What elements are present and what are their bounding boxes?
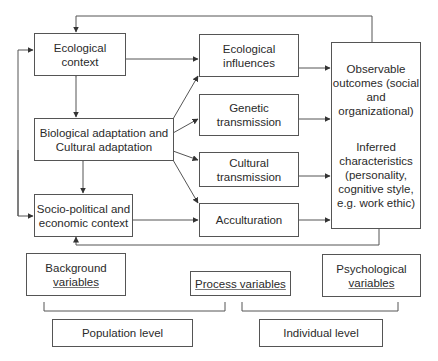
bio-to-genetic-arrow	[173, 119, 198, 133]
inferred-line2: characteristics	[339, 154, 413, 168]
inferred-characteristics-text: Inferred characteristics (personality, c…	[337, 140, 415, 210]
acculturation-label: Acculturation	[216, 213, 282, 227]
bio-to-eco-influences-arrow	[173, 76, 198, 119]
observable-line4: organizational)	[338, 104, 413, 118]
bio-to-cultural-arrow	[173, 151, 198, 160]
population-level-label: Population level	[82, 326, 163, 340]
individual-bracket	[242, 302, 398, 311]
individual-level-label: Individual level	[283, 326, 358, 340]
inferred-line3: (personality,	[345, 168, 407, 182]
bio-cultural-adaptation-line1: Biological adaptation and	[40, 126, 169, 140]
psychological-variables-box: Psychological variables	[322, 254, 421, 297]
population-bracket	[44, 302, 225, 311]
bio-cultural-adaptation-box: Biological adaptation and Cultural adapt…	[34, 118, 174, 161]
sociopolitical-context-box: Socio-political and economic context	[34, 194, 133, 237]
ecological-influences-line2: influences	[223, 56, 275, 70]
left-rail-to-ecological	[18, 50, 33, 216]
process-variables-label: Process variables	[195, 277, 286, 291]
left-rail-to-sociopolitical	[18, 150, 33, 216]
ecological-influences-line1: Ecological	[223, 42, 275, 56]
genetic-transmission-line2: transmission	[217, 115, 282, 129]
cultural-transmission-box: Cultural transmission	[199, 152, 299, 187]
bio-cultural-adaptation-line2: Cultural adaptation	[56, 140, 153, 154]
sociopolitical-line2: economic context	[39, 216, 129, 230]
observable-line2: outcomes (social	[333, 76, 419, 90]
cultural-transmission-line2: transmission	[217, 170, 282, 184]
cultural-transmission-line1: Cultural	[229, 156, 269, 170]
inferred-line4: cognitive style,	[338, 182, 413, 196]
bio-to-acculturation-arrow	[173, 160, 198, 203]
ecological-context-line1: Ecological	[54, 41, 106, 55]
background-line1: Background	[45, 261, 106, 275]
inferred-line1: Inferred	[356, 140, 396, 154]
ecological-influences-box: Ecological influences	[199, 34, 299, 77]
population-level-box: Population level	[52, 319, 193, 347]
psychological-line2: variables	[348, 276, 394, 290]
psychological-line1: Psychological	[336, 262, 406, 276]
individual-level-box: Individual level	[259, 319, 383, 347]
observable-line3: and	[366, 90, 385, 104]
inferred-line5: e.g. work ethic)	[337, 196, 415, 210]
process-variables-box: Process variables	[190, 271, 291, 296]
genetic-transmission-box: Genetic transmission	[199, 94, 299, 136]
ecological-context-line2: context	[61, 55, 98, 69]
background-line2: variables	[53, 275, 99, 289]
outcomes-box: Observable outcomes (social and organiza…	[331, 42, 421, 229]
acculturation-box: Acculturation	[199, 203, 299, 237]
observable-outcomes-text: Observable outcomes (social and organiza…	[333, 62, 419, 118]
observable-line1: Observable	[347, 62, 406, 76]
genetic-transmission-line1: Genetic	[229, 101, 269, 115]
background-variables-box: Background variables	[26, 253, 126, 296]
sociopolitical-line1: Socio-political and	[37, 202, 130, 216]
ecological-context-box: Ecological context	[34, 33, 126, 76]
